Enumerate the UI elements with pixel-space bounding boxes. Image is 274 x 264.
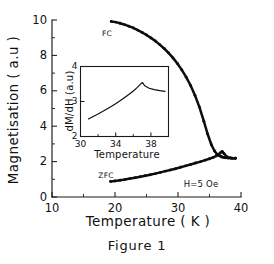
data-point (204, 159, 207, 162)
data-point (189, 84, 192, 87)
data-point (199, 160, 202, 163)
x-tick-label: 40 (234, 201, 249, 215)
data-point (164, 170, 167, 173)
data-point (202, 120, 205, 123)
data-point (167, 51, 170, 54)
x-tick-label: 10 (45, 201, 60, 215)
data-point (213, 150, 216, 153)
data-point (145, 34, 148, 37)
data-point (139, 175, 142, 178)
data-point (189, 163, 192, 166)
data-point (154, 172, 157, 175)
inset-x-tick-label: 38 (145, 139, 157, 149)
y-axis-title: Magnetisation ( a.u ) (5, 36, 21, 185)
data-point (159, 171, 162, 174)
data-point (172, 56, 175, 59)
data-point (212, 156, 215, 159)
x-axis-title: Temperature ( K ) (85, 213, 211, 229)
data-point (184, 164, 187, 167)
data-point (136, 29, 139, 32)
data-point (119, 179, 122, 182)
y-tick-label: 4 (40, 119, 47, 133)
data-point (144, 174, 147, 177)
inset-y-axis-title: dM/dH (a.u) (64, 70, 75, 131)
y-tick-label: 2 (40, 154, 47, 168)
data-point (198, 106, 201, 109)
data-point (215, 154, 218, 157)
applied-field-label: H=5 Oe (184, 179, 219, 189)
data-point (119, 22, 122, 25)
data-point (149, 36, 152, 39)
inset-plot: 234 303438 (72, 61, 169, 149)
data-point (141, 31, 144, 34)
data-point (194, 162, 197, 165)
inset-x-tick-label: 30 (75, 139, 87, 149)
data-point (129, 177, 132, 180)
figure-caption: Figure 1 (108, 238, 167, 253)
data-point (123, 23, 126, 26)
data-point (154, 40, 157, 43)
data-point (180, 68, 183, 71)
data-point (221, 150, 224, 153)
data-point (210, 143, 213, 146)
data-point (114, 21, 117, 24)
y-tick-label: 10 (32, 13, 47, 27)
data-point (134, 176, 137, 179)
y-tick-label: 6 (40, 83, 47, 97)
data-point (169, 168, 172, 171)
magnetisation-vs-temperature-plot: 0246810 10203040 234 303438 Magnetisatio… (0, 0, 274, 264)
data-point (163, 47, 166, 50)
data-point (229, 157, 232, 160)
data-point (158, 43, 161, 46)
data-point (208, 157, 211, 160)
data-point (132, 27, 135, 30)
data-point (127, 25, 130, 28)
data-point (149, 173, 152, 176)
data-point (185, 76, 188, 79)
data-point (206, 133, 209, 136)
zfc-series-label: ZFC (98, 171, 114, 180)
data-point (174, 167, 177, 170)
fc-series-label: FC (102, 29, 112, 38)
data-point (179, 166, 182, 169)
inset-x-tick-label: 34 (110, 139, 122, 149)
data-point (226, 156, 229, 159)
inset-frame-box (81, 67, 169, 137)
data-point (234, 157, 237, 160)
data-point (114, 179, 117, 182)
data-point (223, 152, 226, 155)
inset-x-axis-title: Temperature (93, 149, 160, 160)
data-point (194, 94, 197, 97)
inset-y-tick-label: 4 (72, 61, 78, 71)
data-point (110, 20, 113, 23)
y-tick-label: 8 (40, 48, 47, 62)
data-point (124, 178, 127, 181)
data-point (176, 62, 179, 65)
data-point (109, 180, 112, 183)
figure-container: 0246810 10203040 234 303438 Magnetisatio… (0, 0, 274, 264)
